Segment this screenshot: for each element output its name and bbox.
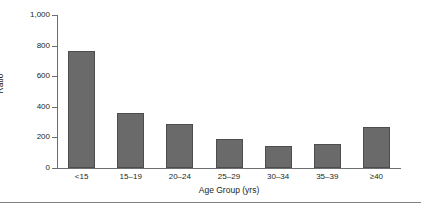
bar <box>68 51 95 168</box>
x-axis-tick-label: 30–34 <box>254 172 303 181</box>
x-axis-tick-label: <15 <box>57 172 106 181</box>
bottom-divider <box>0 202 421 203</box>
y-axis-tick-label: 1,000 <box>0 11 50 19</box>
x-axis-tick-label: 25–29 <box>204 172 253 181</box>
bar <box>216 139 243 168</box>
x-axis-title: Age Group (yrs) <box>57 186 401 195</box>
x-axis-tick-label: 35–39 <box>303 172 352 181</box>
bar <box>265 146 292 168</box>
y-axis-title: Ratio <box>0 74 5 94</box>
bar-series <box>57 15 401 168</box>
x-axis-tick-label: 20–24 <box>155 172 204 181</box>
bar-chart-figure: 02004006008001,000 Ratio <1515–1920–2425… <box>0 0 421 217</box>
bar <box>117 113 144 168</box>
y-axis-tick-label: 200 <box>0 133 50 141</box>
x-axis-line <box>57 168 401 169</box>
y-axis-tick-label: 0 <box>0 164 50 172</box>
bar <box>363 127 390 168</box>
y-axis-tick-label: 600 <box>0 72 50 80</box>
x-axis-tick-label: ≥40 <box>352 172 401 181</box>
y-axis-tick <box>52 168 57 169</box>
y-axis-tick-label: 800 <box>0 42 50 50</box>
x-axis-tick-label: 15–19 <box>106 172 155 181</box>
bar <box>166 124 193 168</box>
bar <box>314 144 341 168</box>
y-axis-tick-label: 400 <box>0 103 50 111</box>
